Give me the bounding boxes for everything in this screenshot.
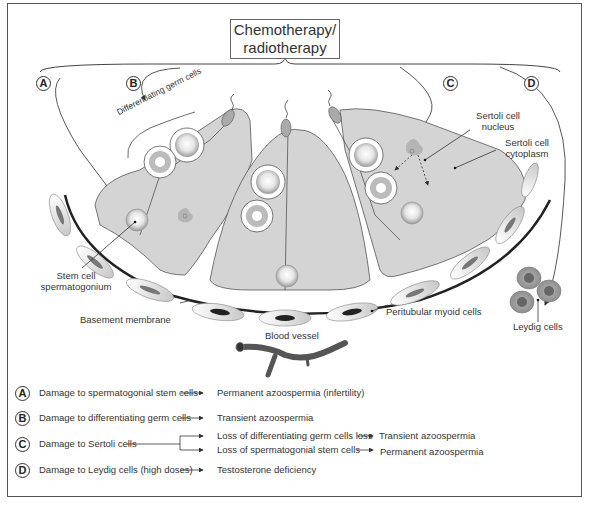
legend-cause-a: Damage to spermatogonial stem cells [39, 387, 198, 398]
label-sertoli-cytoplasm: Sertoli cell cytoplasm [497, 137, 557, 159]
legend-cause-c: Damage to Sertoli cells [39, 438, 137, 449]
label-sertoli-nucleus-line2: nucleus [468, 121, 528, 132]
label-peritubular-myoid-cells: Peritubular myoid cells [386, 306, 482, 317]
legend-marker-d: D [15, 463, 30, 478]
marker-a: A [36, 76, 51, 91]
label-basement-membrane: Basement membrane [80, 314, 171, 325]
label-sertoli-cytoplasm-line1: Sertoli cell [497, 137, 557, 148]
legend-effect-b: Transient azoospermia [217, 412, 313, 423]
title-line-2: radiotherapy [231, 39, 339, 57]
legend-effect-c2: Loss of spermatogonial stem cells [217, 444, 360, 455]
legend-marker-a: A [15, 386, 30, 401]
legend-cause-b: Damage to differentiating germ cells [39, 412, 191, 423]
legend-effect-a: Permanent azoospermia (infertility) [217, 387, 364, 398]
legend-cause-d: Damage to Leydig cells (high doses) [39, 464, 193, 475]
marker-d: D [524, 76, 539, 91]
treatment-title-box: Chemotherapy/ radiotherapy [230, 19, 340, 59]
legend-effect-d: Testosterone deficiency [217, 464, 316, 475]
legend-marker-c: C [15, 437, 30, 452]
legend-outcome-c2: Permanent azoospermia [380, 446, 484, 457]
label-stem-cell: Stem cell spermatogonium [36, 270, 116, 292]
marker-b: B [126, 76, 141, 91]
label-sertoli-cytoplasm-line2: cytoplasm [497, 148, 557, 159]
title-line-1: Chemotherapy/ [231, 21, 339, 39]
blood-vessel [236, 343, 345, 376]
label-sertoli-nucleus: Sertoli cell nucleus [468, 110, 528, 132]
legend-effect-c1: Loss of differentiating germ cells loss [217, 430, 373, 441]
legend-outcome-c1: Transient azoospermia [379, 430, 475, 441]
stem-cell [126, 209, 148, 231]
leydig-cells [510, 267, 561, 313]
legend-marker-b: B [15, 411, 30, 426]
label-blood-vessel: Blood vessel [265, 330, 319, 341]
marker-c: C [443, 76, 458, 91]
label-leydig-cells: Leydig cells [513, 321, 563, 332]
label-stem-cell-line1: Stem cell [36, 270, 116, 281]
label-sertoli-nucleus-line1: Sertoli cell [468, 110, 528, 121]
label-stem-cell-line2: spermatogonium [36, 281, 116, 292]
